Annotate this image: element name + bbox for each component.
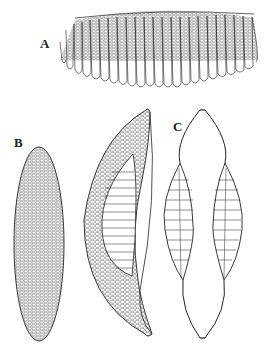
panel-b-girdle-view [84,109,152,336]
panel-c-paired-valves [164,110,242,338]
panel-a-colony [60,10,258,87]
label-b: B [14,136,23,149]
panel-b-valve [14,147,64,341]
label-a: A [40,37,49,50]
diatom-illustration [0,0,274,353]
label-c: C [173,120,182,133]
